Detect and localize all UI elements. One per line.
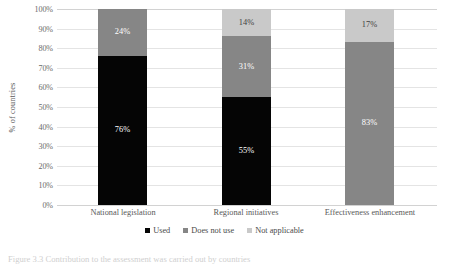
figure-caption: Figure 3.3 Contribution to the assessmen… bbox=[8, 254, 448, 264]
ytick-label-10: 10% bbox=[38, 181, 53, 190]
ytick-label-50: 50% bbox=[38, 103, 53, 112]
legend-item-does-not-use[interactable]: Does not use bbox=[183, 226, 234, 235]
bar-national-legislation[interactable]: 76% 24% bbox=[98, 9, 147, 205]
bar-segment-label: 83% bbox=[362, 119, 378, 127]
bar-segment-label: 24% bbox=[115, 28, 131, 36]
bar-segment-not-applicable[interactable]: 17% bbox=[345, 9, 394, 42]
plot-area: 100% 90% 80% 70% 60% 50% 40% 30% bbox=[57, 9, 437, 205]
bar-segment-does-not-use[interactable]: 83% bbox=[345, 42, 394, 205]
bar-segment-used[interactable]: 76% bbox=[98, 56, 147, 205]
xtick-label-effectiveness-enhancement: Effectiveness enhancement bbox=[295, 208, 445, 217]
bar-segment-used[interactable]: 55% bbox=[222, 97, 271, 205]
y-axis-title: % of countries bbox=[8, 53, 17, 163]
gridline-0: 0% bbox=[57, 205, 437, 206]
ytick-label-70: 70% bbox=[38, 63, 53, 72]
legend-label: Does not use bbox=[191, 226, 234, 235]
bar-segment-label: 17% bbox=[362, 21, 378, 29]
ytick-label-40: 40% bbox=[38, 122, 53, 131]
legend-label: Used bbox=[153, 226, 170, 235]
chart-area: % of countries 100% 90% 80% 70% 60% 50% bbox=[0, 0, 449, 222]
ytick-label-90: 90% bbox=[38, 24, 53, 33]
ytick-label-80: 80% bbox=[38, 44, 53, 53]
bar-effectiveness-enhancement[interactable]: 83% 17% bbox=[345, 9, 394, 205]
legend-swatch-icon bbox=[183, 228, 188, 233]
bar-segment-label: 76% bbox=[115, 126, 131, 134]
bar-segment-label: 14% bbox=[239, 19, 255, 27]
bar-segment-not-applicable[interactable]: 14% bbox=[222, 9, 271, 36]
ytick-label-20: 20% bbox=[38, 161, 53, 170]
legend-label: Not applicable bbox=[255, 226, 304, 235]
bar-segment-does-not-use[interactable]: 24% bbox=[98, 9, 147, 56]
chart-legend: Used Does not use Not applicable bbox=[0, 226, 449, 235]
legend-item-not-applicable[interactable]: Not applicable bbox=[247, 226, 304, 235]
bar-regional-initiatives[interactable]: 55% 31% 14% bbox=[222, 9, 271, 205]
bar-segment-label: 55% bbox=[239, 147, 255, 155]
bar-segment-does-not-use[interactable]: 31% bbox=[222, 36, 271, 97]
legend-swatch-icon bbox=[145, 228, 150, 233]
bar-segment-label: 31% bbox=[239, 63, 255, 71]
legend-swatch-icon bbox=[247, 228, 252, 233]
ytick-label-30: 30% bbox=[38, 142, 53, 151]
figure-container: % of countries 100% 90% 80% 70% 60% 50% bbox=[0, 0, 449, 265]
legend-item-used[interactable]: Used bbox=[145, 226, 170, 235]
ytick-label-100: 100% bbox=[35, 5, 53, 14]
ytick-label-60: 60% bbox=[38, 83, 53, 92]
